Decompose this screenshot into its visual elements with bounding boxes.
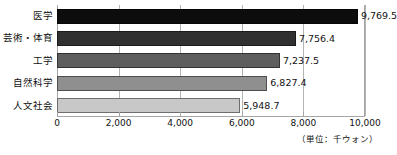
bar-series: 9,769.57,756.47,237.56,827.45,948.7 bbox=[57, 5, 365, 117]
x-axis-tick-labels: 02,0004,0006,0008,00010,000 bbox=[57, 117, 365, 131]
category-label: 自然科学 bbox=[13, 72, 53, 94]
bar-row: 6,827.4 bbox=[57, 72, 365, 94]
x-tick-label: 4,000 bbox=[167, 117, 193, 130]
x-tick-mark bbox=[303, 112, 304, 116]
x-tick-mark bbox=[119, 112, 120, 116]
bar-row: 5,948.7 bbox=[57, 95, 365, 117]
category-label: 芸術・体育 bbox=[3, 27, 53, 49]
bar[interactable] bbox=[57, 98, 240, 113]
bar[interactable] bbox=[57, 53, 280, 68]
bar-row: 7,237.5 bbox=[57, 50, 365, 72]
x-tick-label: 2,000 bbox=[106, 117, 132, 130]
x-tick-mark bbox=[242, 112, 243, 116]
category-label: 人文社会 bbox=[13, 95, 53, 117]
unit-note: （単位：千ウォン） bbox=[297, 133, 378, 145]
x-tick-label: 0 bbox=[54, 117, 60, 130]
bar-value-label: 7,237.5 bbox=[283, 53, 319, 68]
x-tick-mark bbox=[180, 112, 181, 116]
bar[interactable] bbox=[57, 76, 267, 91]
bar-value-label: 5,948.7 bbox=[243, 98, 279, 113]
bar-value-label: 7,756.4 bbox=[299, 31, 335, 46]
x-tick-label: 8,000 bbox=[291, 117, 317, 130]
category-axis-labels: 医学芸術・体育工学自然科学人文社会 bbox=[0, 5, 53, 117]
category-label: 工学 bbox=[33, 50, 53, 72]
bar-row: 7,756.4 bbox=[57, 27, 365, 49]
bar-value-label: 6,827.4 bbox=[270, 75, 306, 90]
x-tick-mark bbox=[57, 112, 58, 116]
category-label: 医学 bbox=[33, 5, 53, 27]
x-tick-mark bbox=[364, 112, 365, 116]
x-tick-label: 6,000 bbox=[229, 117, 255, 130]
bar[interactable] bbox=[57, 31, 296, 46]
bar-row: 9,769.5 bbox=[57, 5, 365, 27]
bar[interactable] bbox=[57, 9, 358, 24]
x-tick-label: 10,000 bbox=[349, 117, 381, 130]
bar-value-label: 9,769.5 bbox=[361, 8, 397, 23]
